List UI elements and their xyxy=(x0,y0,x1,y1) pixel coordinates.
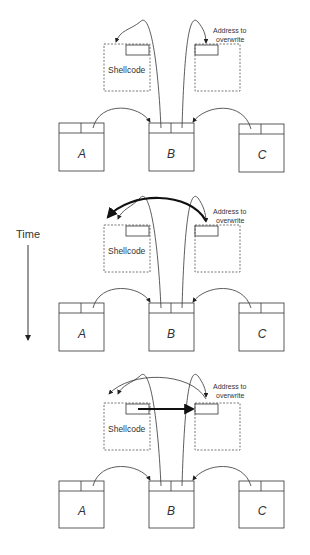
node-a-label: A xyxy=(77,504,86,518)
link-c-to-b xyxy=(193,288,251,308)
address-label-line2: overwrite xyxy=(216,36,245,43)
node-b-label: B xyxy=(167,327,175,341)
link-a-to-b xyxy=(93,288,150,308)
link-c-to-b xyxy=(193,466,251,486)
address-label-line1: Address to xyxy=(213,27,247,34)
address-label-line1: Address to xyxy=(213,208,247,215)
shellcode-label: Shellcode xyxy=(108,424,146,434)
node-a-label: A xyxy=(77,147,86,161)
panel-step-2: Shellcode Address to overwrite A B C xyxy=(59,196,284,351)
link-b-bk-to-address xyxy=(182,374,206,486)
node-b-label: B xyxy=(167,147,175,161)
shellcode-label: Shellcode xyxy=(108,65,146,75)
address-chunk xyxy=(195,403,240,450)
address-label-line2: overwrite xyxy=(216,217,245,224)
link-b-bk-to-address xyxy=(182,20,206,128)
time-label: Time xyxy=(16,228,40,240)
node-c-label: C xyxy=(258,504,267,518)
node-b-label: B xyxy=(167,504,175,518)
address-field xyxy=(195,45,218,55)
shellcode-pointer-field xyxy=(126,226,149,236)
address-field xyxy=(195,226,218,236)
panel-step-1: Shellcode Address to overwrite A B C xyxy=(59,20,284,172)
link-a-to-b xyxy=(93,108,150,128)
node-a-label: A xyxy=(77,327,86,341)
link-c-to-b xyxy=(193,108,251,129)
overwritten-pointer-arc xyxy=(109,377,206,399)
node-c-label: C xyxy=(258,148,267,162)
address-label-line2: overwrite xyxy=(216,392,245,399)
shellcode-label: Shellcode xyxy=(108,246,146,256)
address-label-line1: Address to xyxy=(213,383,247,390)
node-c-label: C xyxy=(258,327,267,341)
shellcode-pointer-field xyxy=(126,45,149,55)
address-chunk xyxy=(195,44,240,91)
link-a-to-b xyxy=(93,466,150,486)
heap-overflow-diagram: Time Shellcode Address to overwrite A B … xyxy=(0,0,310,555)
panel-step-3: Shellcode Address to overwrite A B C xyxy=(59,374,284,528)
address-field xyxy=(195,404,218,414)
address-chunk xyxy=(195,225,240,272)
link-b-bk-to-address xyxy=(182,196,206,308)
